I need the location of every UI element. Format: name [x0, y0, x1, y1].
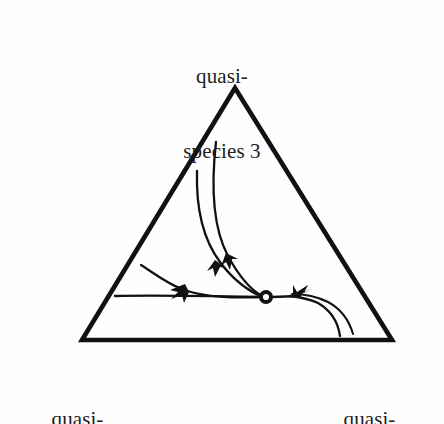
vertex-label-species-3-line2: species 3	[147, 139, 297, 164]
trajectory-lower-right-b	[292, 294, 353, 334]
vertex-label-species-3: quasi- species 3	[147, 14, 297, 214]
fixed-point-center	[263, 294, 269, 300]
arrowhead-left-incoming	[170, 284, 189, 303]
vertex-label-species-1: quasi- species 1	[5, 357, 150, 424]
vertex-label-species-3-line1: quasi-	[147, 64, 297, 89]
vertex-label-species-2: quasi- species 2	[297, 357, 442, 424]
trajectory-left-curved	[141, 265, 259, 297]
vertex-label-species-2-line1: quasi-	[297, 407, 442, 424]
simplex-figure: quasi- species 3 quasi- species 1 quasi-…	[0, 0, 444, 424]
vertex-label-species-1-line1: quasi-	[5, 407, 150, 424]
trajectory-lower-right-a	[290, 296, 340, 336]
